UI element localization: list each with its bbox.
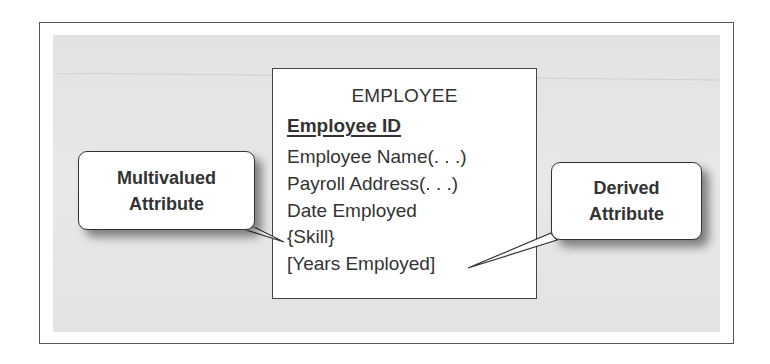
callout-derived-attribute: Derived Attribute bbox=[551, 162, 702, 240]
derived-pointer-tail bbox=[468, 233, 557, 268]
callout-text-line2: Attribute bbox=[129, 191, 204, 217]
callout-text-line2: Attribute bbox=[589, 201, 664, 227]
callout-multivalued-attribute: Multivalued Attribute bbox=[78, 151, 255, 230]
callout-text-line1: Derived bbox=[593, 175, 659, 201]
callout-text-line1: Multivalued bbox=[117, 165, 216, 191]
